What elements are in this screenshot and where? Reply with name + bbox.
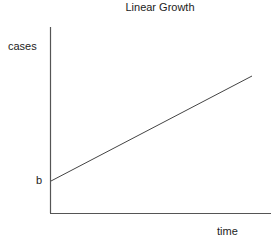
growth-line: [51, 76, 252, 181]
plot-area: [0, 0, 278, 244]
